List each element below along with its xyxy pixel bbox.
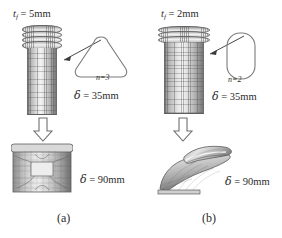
delta-symbol-a2: δ — [80, 173, 87, 186]
panel-b-caption: (b) — [202, 212, 216, 224]
panel-b-displacement-90-value: = 90mm — [234, 176, 269, 187]
panel-b-displacement-90: δ = 90mm — [225, 176, 270, 188]
panel-a-tube-crushed — [11, 142, 73, 194]
panel-a-displacement-90-value: = 90mm — [89, 174, 124, 185]
panel-a: tf = 5mm n=3 δ = 35mm — [0, 0, 141, 238]
panel-a-thickness-value: 5mm — [29, 8, 51, 19]
panel-b-lobes-label: n=2 — [228, 76, 241, 84]
panel-a-lobes-label: n=3 — [96, 74, 109, 82]
delta-symbol-b2: δ — [225, 175, 232, 188]
delta-symbol-a1: δ — [74, 89, 81, 102]
panel-a-caption: (a) — [57, 212, 70, 224]
panel-b-thickness-label: tf = 2mm — [161, 9, 199, 21]
panel-a-displacement-35: δ = 35mm — [74, 90, 119, 102]
panel-a-down-block-arrow — [33, 117, 53, 142]
panel-a-tube-intermediate — [25, 25, 59, 115]
tube-shell-mesh — [27, 48, 57, 115]
panel-b: tf = 2mm n=2 δ = 35mm — [141, 0, 282, 238]
panel-a-displacement-35-value: = 35mm — [83, 90, 118, 101]
panel-a-thickness-label: tf = 5mm — [13, 9, 51, 21]
panel-b-thickness-value: 2mm — [177, 8, 199, 19]
panel-a-displacement-90: δ = 90mm — [80, 174, 125, 186]
delta-symbol-b1: δ — [212, 90, 219, 103]
figure-root: tf = 5mm n=3 δ = 35mm — [0, 0, 282, 238]
panel-b-down-block-arrow — [173, 117, 193, 142]
panel-b-tube-intermediate — [161, 26, 207, 114]
panel-b-displacement-35: δ = 35mm — [212, 91, 257, 103]
tube-shell-mesh — [164, 42, 204, 114]
panel-b-displacement-35-value: = 35mm — [221, 91, 256, 102]
panel-b-tube-collapsed — [156, 141, 236, 197]
